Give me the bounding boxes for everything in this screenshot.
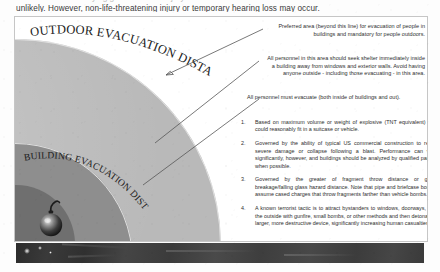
callout-must-evacuate-line-1: All personnel must evacuate (both inside…	[247, 94, 427, 102]
figure-note-number: 1.	[241, 119, 255, 126]
figure-note: 2. Governed by the ability of typical US…	[241, 140, 428, 170]
figure-note-text: Governed by the ability of typical US co…	[255, 140, 428, 170]
body-paragraph: and the hazards of flying glass. Serious…	[16, 0, 424, 12]
callout-preferred-area: Preferred area (beyond this line) for ev…	[251, 23, 425, 38]
evacuation-distance-figure: OUTDOOR EVACUATION DISTANCE BUILDING EVA…	[14, 16, 428, 242]
figure-note-text: A known terrorist tactic is to attract b…	[255, 205, 428, 227]
body-paragraph-line-cut-off: and the hazards of flying glass. Serious…	[16, 0, 424, 3]
body-paragraph-line-visible: unlikely. However, non-life-threatening …	[16, 3, 424, 12]
figure-note: 1. Based on maximum volume or weight of …	[241, 119, 428, 134]
figure-note: 3. Governed by the greater of fragment t…	[241, 176, 428, 198]
callout-seek-shelter-line-2: a building away from windows and exterio…	[247, 63, 425, 71]
callout-preferred-area-line-2: buildings and mandatory for people outdo…	[251, 31, 425, 39]
callout-seek-shelter-line-3: anyone outside - including those evacuat…	[247, 70, 425, 78]
callout-must-evacuate: All personnel must evacuate (both inside…	[247, 94, 427, 102]
figure-note-text: Based on maximum volume or weight of exp…	[255, 119, 428, 134]
leader-arrowhead-preferred-area	[166, 71, 173, 75]
figure-note-number: 4.	[241, 205, 255, 212]
figure-note-number: 2.	[241, 140, 255, 147]
callout-seek-shelter: All personnel in this area should seek s…	[247, 55, 425, 78]
figure-notes-list: 1. Based on maximum volume or weight of …	[241, 119, 428, 234]
callout-seek-shelter-line-1: All personnel in this area should seek s…	[247, 55, 425, 63]
scanned-document-page: and the hazards of flying glass. Serious…	[0, 0, 440, 272]
photo-strip	[16, 243, 424, 263]
figure-note-text: Governed by the greater of fragment thro…	[255, 176, 428, 198]
figure-note: 4. A known terrorist tactic is to attrac…	[241, 205, 428, 227]
bomb-icon	[33, 199, 69, 239]
figure-note-number: 3.	[241, 176, 255, 183]
callout-preferred-area-line-1: Preferred area (beyond this line) for ev…	[251, 23, 425, 31]
